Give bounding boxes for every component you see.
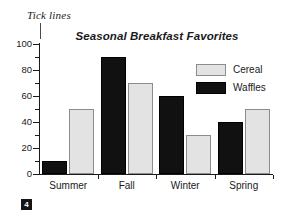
bar-winter-cereal: [186, 135, 211, 174]
x-tick-label-spring: Spring: [215, 180, 274, 192]
x-tick-label-fall: Fall: [98, 180, 157, 192]
x-tick-label-winter: Winter: [156, 180, 215, 192]
legend-label-cereal: Cereal: [233, 63, 262, 76]
y-tick-label-wrap: 40: [0, 117, 32, 127]
legend-label-waffles: Waffles: [233, 81, 266, 94]
legend-swatch-waffles: [196, 82, 226, 94]
chart-figure: Tick lines Seasonal Breakfast Favorites …: [0, 0, 282, 220]
y-tick-label-wrap: 80: [0, 65, 32, 75]
x-tick: [98, 175, 99, 179]
y-tick-label: 60: [6, 91, 32, 101]
y-tick-label-wrap: 60: [0, 91, 32, 101]
y-tick-label-wrap: 0: [0, 169, 32, 179]
y-tick-label: 80: [6, 65, 32, 75]
y-tick-label: 0: [6, 169, 32, 179]
y-tick-label: 40: [6, 117, 32, 127]
bar-summer-waffles: [42, 161, 67, 174]
y-tick-major: [33, 174, 39, 175]
page-number-badge: 4: [21, 199, 32, 210]
y-tick-label: 100: [6, 39, 32, 49]
bar-winter-waffles: [159, 96, 184, 174]
x-tick: [156, 175, 157, 179]
x-tick: [273, 175, 274, 179]
tick-lines-leader-line: [40, 23, 41, 39]
y-tick-label: 20: [6, 143, 32, 153]
bar-fall-waffles: [101, 57, 126, 174]
tick-lines-annotation-label: Tick lines: [27, 9, 71, 21]
bar-summer-cereal: [69, 109, 94, 174]
x-tick-label-summer: Summer: [39, 180, 98, 192]
bar-spring-waffles: [218, 122, 243, 174]
legend-swatch-cereal: [196, 64, 226, 76]
chart-title: Seasonal Breakfast Favorites: [62, 30, 252, 42]
y-tick-label-wrap: 100: [0, 39, 32, 49]
bar-spring-cereal: [245, 109, 270, 174]
y-tick-label-wrap: 20: [0, 143, 32, 153]
bar-fall-cereal: [128, 83, 153, 174]
x-tick: [215, 175, 216, 179]
